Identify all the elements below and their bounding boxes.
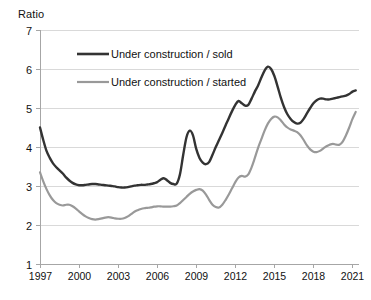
x-tick-label: 2012 bbox=[224, 270, 248, 282]
x-tick-label: 2006 bbox=[146, 270, 170, 282]
y-tick-labels-group: 7654321 bbox=[26, 25, 32, 271]
y-tick-label: 7 bbox=[26, 25, 32, 37]
x-tick-label: 2015 bbox=[263, 270, 287, 282]
legend-label: Under construction / sold bbox=[111, 48, 233, 60]
chart-legend: Under construction / soldUnder construct… bbox=[77, 48, 246, 88]
chart-plot-area: 7654321 19972000200320062009201220152018… bbox=[0, 0, 371, 300]
legend-label: Under construction / started bbox=[111, 76, 246, 88]
y-tick-label: 1 bbox=[26, 259, 32, 271]
y-tick-label: 2 bbox=[26, 220, 32, 232]
x-tick-labels-group: 199720002003200620092012201520182021 bbox=[29, 270, 365, 282]
x-tick-label: 1997 bbox=[29, 270, 53, 282]
y-tick-label: 4 bbox=[26, 142, 32, 154]
x-tick-label: 2018 bbox=[302, 270, 326, 282]
y-tick-marks-group bbox=[36, 31, 40, 265]
x-tick-label: 2009 bbox=[185, 270, 209, 282]
y-tick-label: 5 bbox=[26, 103, 32, 115]
y-tick-label: 6 bbox=[26, 64, 32, 76]
x-tick-label: 2000 bbox=[68, 270, 92, 282]
x-tick-label: 2021 bbox=[341, 270, 365, 282]
gridlines-group bbox=[40, 31, 359, 265]
ratio-line-chart: Ratio 7654321 19972000200320062009201220… bbox=[0, 0, 371, 300]
series-line bbox=[40, 112, 356, 220]
y-tick-label: 3 bbox=[26, 181, 32, 193]
x-tick-label: 2003 bbox=[107, 270, 131, 282]
data-series-group bbox=[40, 67, 356, 220]
